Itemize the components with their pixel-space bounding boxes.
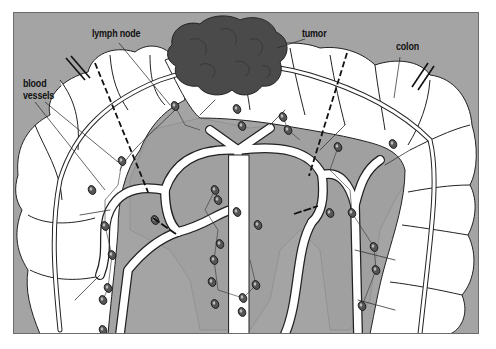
label-tumor: tumor: [302, 27, 326, 39]
label-colon: colon: [396, 40, 419, 52]
colon-anatomy-illustration: [0, 0, 496, 349]
label-blood-vessels-line1: blood: [23, 77, 46, 89]
tumor: [168, 16, 287, 95]
label-lymph-node: lymph node: [92, 27, 140, 39]
label-blood-vessels-line2: vessels: [23, 89, 54, 101]
